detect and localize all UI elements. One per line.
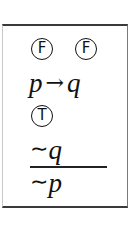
premise-conditional: p→q (29, 70, 80, 97)
conclusion: ∼p (30, 170, 62, 197)
truth-value-conditional: T (31, 105, 53, 127)
truth-value-p: F (31, 38, 53, 60)
premise-negation: ∼q (30, 137, 62, 164)
antecedent: p (29, 68, 43, 98)
conclusion-rule (30, 166, 107, 168)
truth-value-q: F (75, 38, 97, 60)
negation-symbol: ∼ (30, 136, 48, 161)
negation-symbol: ∼ (30, 169, 48, 194)
negated-variable: q (48, 135, 62, 165)
consequent: q (67, 68, 81, 98)
argument-box (2, 24, 128, 208)
conclusion-variable: p (48, 168, 62, 198)
implies-arrow: → (46, 70, 64, 95)
